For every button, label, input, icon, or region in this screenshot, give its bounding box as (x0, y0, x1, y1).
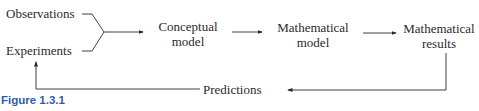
figure-caption: Figure 1.3.1 (1, 94, 65, 106)
experiments-connector (82, 32, 104, 51)
arrow-to-experiments (36, 62, 200, 89)
node-line: results (398, 36, 479, 51)
node-mathematical-results: Mathematical results (398, 21, 479, 51)
node-line: Conceptual (148, 19, 228, 34)
node-predictions: Predictions (203, 82, 262, 97)
node-line: Mathematical (267, 20, 359, 35)
observations-connector (82, 14, 104, 32)
node-conceptual-model: Conceptual model (148, 19, 228, 49)
node-line: Mathematical (398, 21, 479, 36)
node-line: model (148, 34, 228, 49)
node-experiments: Experiments (6, 43, 72, 58)
node-mathematical-model: Mathematical model (267, 20, 359, 50)
arrow-to-predictions (288, 53, 446, 90)
node-line: model (267, 35, 359, 50)
node-observations: Observations (6, 6, 75, 21)
